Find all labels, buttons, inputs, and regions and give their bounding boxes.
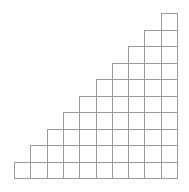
grid-cell <box>145 163 162 179</box>
grid-cell <box>97 97 113 113</box>
grid-cell <box>145 146 162 163</box>
grid-cell <box>97 163 113 179</box>
grid-cell <box>64 146 80 163</box>
grid-cell <box>113 146 129 163</box>
grid-cell <box>145 97 162 113</box>
grid-cell <box>129 130 145 146</box>
grid-cell <box>162 97 178 113</box>
grid-cell <box>113 163 129 179</box>
grid-cell <box>113 80 129 97</box>
grid-cell <box>80 97 97 113</box>
grid-cell <box>31 163 48 179</box>
grid-cell <box>113 113 129 130</box>
grid-cell <box>64 163 80 179</box>
grid-cell <box>162 31 178 47</box>
grid-cell <box>129 113 145 130</box>
grid-cell <box>145 130 162 146</box>
grid-cell <box>162 47 178 64</box>
grid-cell <box>15 163 31 179</box>
grid-cell <box>129 64 145 80</box>
grid-cell <box>80 146 97 163</box>
grid-cell <box>64 130 80 146</box>
grid-cell <box>129 163 145 179</box>
grid-cell <box>162 113 178 130</box>
grid-cell <box>113 97 129 113</box>
grid-cell <box>145 31 162 47</box>
grid-cell <box>129 97 145 113</box>
grid-cell <box>48 130 64 146</box>
grid-cell <box>113 130 129 146</box>
grid-cell <box>129 146 145 163</box>
grid-cell <box>97 146 113 163</box>
grid-cell <box>162 130 178 146</box>
grid-cell <box>97 113 113 130</box>
grid-cell <box>129 47 145 64</box>
grid-cell <box>80 113 97 130</box>
grid-cell <box>145 80 162 97</box>
grid-cell <box>162 163 178 179</box>
grid-cell <box>97 80 113 97</box>
grid-cell <box>145 113 162 130</box>
grid-cell <box>80 130 97 146</box>
grid-cell <box>145 64 162 80</box>
grid-cell <box>31 146 48 163</box>
staircase-grid-diagram <box>0 0 189 192</box>
grid-cell <box>162 80 178 97</box>
grid-cell <box>162 146 178 163</box>
grid-cell <box>80 163 97 179</box>
grid-cell <box>48 146 64 163</box>
grid-cell <box>97 130 113 146</box>
grid-cell <box>162 14 178 31</box>
grid-cell <box>129 80 145 97</box>
grid-cell <box>162 64 178 80</box>
grid-cell <box>64 113 80 130</box>
grid-cell <box>48 163 64 179</box>
grid-cell <box>113 64 129 80</box>
grid-cell <box>145 47 162 64</box>
